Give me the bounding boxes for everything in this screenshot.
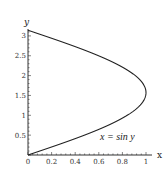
x-tick-label: 0 [26, 158, 30, 166]
curve-annotation: x = sin y [99, 131, 135, 142]
y-tick-label: 3 [22, 32, 26, 40]
y-tick-label: 2 [22, 72, 26, 80]
y-tick-label: 1.5 [15, 92, 26, 100]
plot-area: 00.20.40.60.810.511.522.53 x y x = sin y [0, 0, 167, 175]
x-tick-label: 0.6 [93, 158, 105, 166]
y-tick-label: 1 [22, 112, 26, 120]
x-tick-label: 0.2 [46, 158, 57, 166]
x-tick-label: 0.8 [117, 158, 128, 166]
y-tick-label: 0.5 [15, 132, 26, 140]
x-tick-label: 1 [144, 158, 148, 166]
y-axis-label: y [23, 17, 30, 27]
x-tick-label: 0.4 [70, 158, 82, 166]
y-tick-label: 2.5 [15, 52, 26, 60]
ticks: 00.20.40.60.810.511.522.53 [15, 32, 148, 166]
x-axis-label: x [157, 150, 162, 160]
